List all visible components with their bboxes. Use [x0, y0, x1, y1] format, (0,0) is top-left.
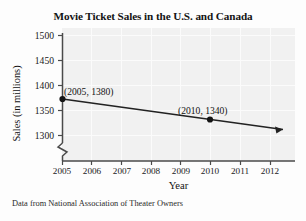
xtick-label-2008: 2008: [134, 166, 168, 176]
ytick-label-1500: 1500: [22, 30, 54, 41]
chart-figure: Movie Ticket Sales in the U.S. and Canad…: [0, 0, 306, 221]
ytick-label-1350: 1350: [22, 105, 54, 116]
data-point-2010: [207, 116, 213, 122]
ytick-label-1450: 1450: [22, 55, 54, 66]
xtick-label-2011: 2011: [223, 166, 257, 176]
xtick-label-2005: 2005: [45, 166, 79, 176]
axis-break-zigzag: [58, 143, 67, 161]
data-series-line: [63, 99, 284, 134]
x-axis-title: Year: [62, 180, 295, 191]
xtick-label-2010: 2010: [193, 166, 227, 176]
annotation-point-2005: (2005, 1380): [64, 86, 114, 97]
ytick-label-1400: 1400: [22, 80, 54, 91]
y-axis-title: Sales (in millions): [11, 44, 22, 164]
ytick-label-1300: 1300: [22, 130, 54, 141]
xtick-label-2012: 2012: [253, 166, 287, 176]
vertical-gridlines: [92, 28, 271, 161]
annotation-point-2010: (2010, 1340): [178, 105, 228, 116]
source-note: Data from National Association of Theate…: [12, 199, 183, 208]
xtick-label-2006: 2006: [75, 166, 109, 176]
trendline-arrowhead: [275, 126, 283, 133]
